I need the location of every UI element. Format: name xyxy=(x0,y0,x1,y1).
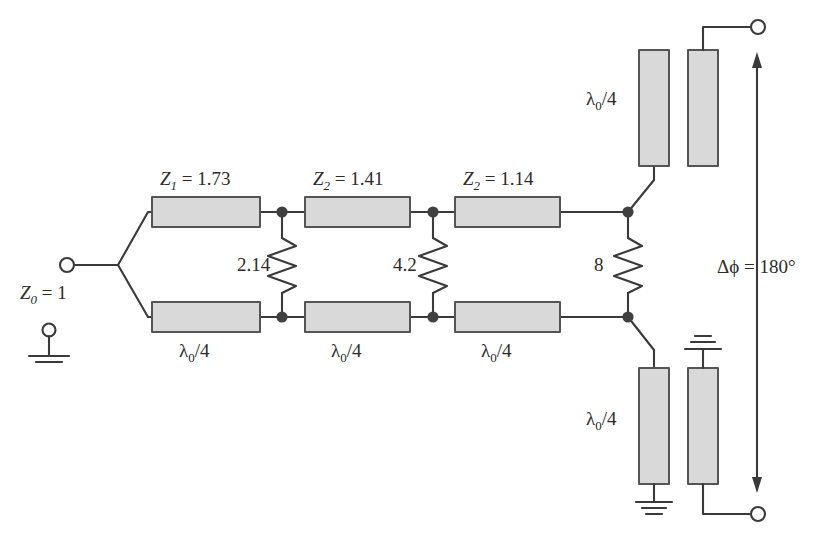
transmission-line-bottom-3 xyxy=(455,302,560,332)
resistor-1-value: 2.14 xyxy=(237,254,270,275)
section-2-impedance-label: Z2 = 1.41 xyxy=(313,168,384,194)
bottom-output-lead xyxy=(703,484,751,514)
output-line-top-left xyxy=(639,50,669,166)
junction-node-bottom-1 xyxy=(276,311,287,322)
input-port-terminal[interactable] xyxy=(60,258,74,272)
section-2-length-label: λ0/4 xyxy=(331,340,362,366)
output-line-top-right xyxy=(688,50,718,166)
junction-node-top-2 xyxy=(427,206,438,217)
section-1-lambda-rest: /4 xyxy=(195,340,210,361)
input-impedance-symbol: Z xyxy=(20,282,31,303)
output-port-bottom-terminal[interactable] xyxy=(751,507,765,521)
transmission-line-top-3 xyxy=(455,197,560,227)
phase-symbol: Δϕ xyxy=(717,256,739,277)
output-top-lambda-symbol: λ xyxy=(586,88,595,109)
section-3-lambda-rest: /4 xyxy=(497,340,512,361)
section-1-lambda-symbol: λ xyxy=(179,340,188,361)
resistor-3-value: 8 xyxy=(594,254,604,275)
section-2-z-value: = 1.41 xyxy=(330,168,383,189)
output-top-lambda-rest: /4 xyxy=(602,88,617,109)
output-line-bottom-right xyxy=(688,368,718,484)
phase-arrow-head-down xyxy=(752,477,762,493)
junction-node-top-3 xyxy=(622,206,633,217)
resistor-3-zigzag xyxy=(614,238,642,293)
transmission-line-top-2 xyxy=(305,197,410,227)
phase-value: 180° xyxy=(759,256,795,277)
section-1-z-symbol: Z xyxy=(160,168,171,189)
section-1-length-label: λ0/4 xyxy=(179,340,210,366)
output-port-top-terminal[interactable] xyxy=(751,20,765,34)
splitter-top-branch xyxy=(118,212,152,265)
section-2-lambda-symbol: λ xyxy=(331,340,340,361)
top-output-lead xyxy=(703,27,751,50)
resistor-1-zigzag xyxy=(268,238,296,293)
output-arm-top-length-label: λ0/4 xyxy=(586,88,617,114)
output-bottom-lambda-rest: /4 xyxy=(602,408,617,429)
schematic-canvas: Z0 = 1 Z1 = 1.73 Z2 = 1.41 Z2 = 1.14 λ0/… xyxy=(0,0,815,544)
bottom-arm-diagonal xyxy=(628,317,654,368)
splitter-bottom-branch xyxy=(118,265,152,317)
input-impedance-label: Z0 = 1 xyxy=(20,282,67,308)
resistor-3-value-label: 8 xyxy=(594,254,604,276)
top-arm-diagonal xyxy=(628,166,654,212)
junction-node-bottom-2 xyxy=(427,311,438,322)
resistor-1-value-label: 2.14 xyxy=(237,254,270,276)
phase-arrow-head-up xyxy=(752,52,762,68)
section-2-lambda-rest: /4 xyxy=(347,340,362,361)
output-arm-bottom-length-label: λ0/4 xyxy=(586,408,617,434)
phase-equals: = xyxy=(739,256,759,277)
phase-difference-label: Δϕ = 180° xyxy=(717,256,796,278)
section-3-length-label: λ0/4 xyxy=(481,340,512,366)
section-3-z-symbol: Z xyxy=(463,168,474,189)
transmission-line-bottom-1 xyxy=(152,302,260,332)
input-ground-circle xyxy=(43,324,56,337)
resistor-2-zigzag xyxy=(419,238,447,293)
section-3-z-value: = 1.14 xyxy=(480,168,533,189)
resistor-2-value-label: 4.2 xyxy=(393,254,417,276)
input-impedance-value: = 1 xyxy=(37,282,67,303)
junction-node-bottom-3 xyxy=(622,311,633,322)
output-line-bottom-left xyxy=(639,368,669,484)
section-1-impedance-label: Z1 = 1.73 xyxy=(160,168,231,194)
junction-node-top-1 xyxy=(276,206,287,217)
resistor-2-value: 4.2 xyxy=(393,254,417,275)
section-3-impedance-label: Z2 = 1.14 xyxy=(463,168,534,194)
output-bottom-lambda-symbol: λ xyxy=(586,408,595,429)
transmission-line-top-1 xyxy=(152,197,260,227)
section-3-lambda-symbol: λ xyxy=(481,340,490,361)
section-1-z-value: = 1.73 xyxy=(177,168,230,189)
section-2-z-symbol: Z xyxy=(313,168,324,189)
transmission-line-bottom-2 xyxy=(305,302,410,332)
